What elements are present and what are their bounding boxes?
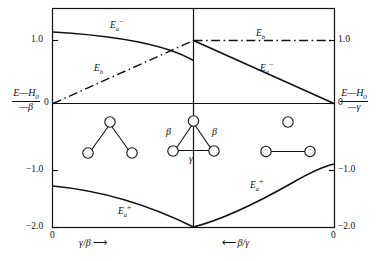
right-bottom-axis-label: ⟵ β/γ (222, 237, 249, 248)
curve-label-middle-left-sub: b (100, 68, 103, 75)
curve-label-upper-left-sub: a (116, 25, 119, 32)
curve-ea-plus-lower-right (194, 164, 335, 227)
left-origin-tick: 0 (50, 230, 55, 240)
curve-label-lower-right-sub: a (256, 185, 259, 192)
structure-center-right-bond-label: β (212, 126, 217, 137)
right-bottom-axis-arrow: ⟵ (222, 237, 235, 248)
left-tick-minus1: −1.0 (26, 164, 43, 174)
right-tick-minus1: −1.0 (338, 164, 355, 174)
right-bottom-axis-text: β/γ (238, 237, 250, 248)
curve-label-lower-left-sup: + (127, 203, 131, 212)
structure-center-left-bond-label: β (166, 126, 171, 137)
curve-label-middle-right-sub: a (266, 68, 269, 75)
structure-right-diatomic-atom (261, 117, 315, 157)
curve-label-lower-left: Ea+ (118, 203, 131, 218)
curve-label-lower-right-sup: + (259, 177, 263, 186)
left-bottom-axis-arrow: ⟶ (93, 237, 106, 248)
right-tick-minus2: −2.0 (338, 221, 355, 231)
curve-label-lower-right: Ea+ (250, 177, 263, 192)
left-axis-denominator: —β (12, 102, 40, 113)
right-axis-denominator: —γ (340, 102, 368, 113)
curve-label-upper-left: Ea− (110, 17, 123, 32)
right-axis-numerator: E—H (341, 87, 363, 98)
figure-container: E—H0 —β E—H0 —γ 1.0 0 −1.0 −2.0 1.0 0 −1… (0, 0, 378, 261)
right-tick-0: 0 (338, 97, 343, 107)
curve-label-lower-left-sub: a (124, 211, 127, 218)
left-tick-0: 0 (44, 97, 49, 107)
right-tick-1: 1.0 (338, 34, 350, 44)
curve-eb-left (53, 41, 194, 104)
left-tick-1: 1.0 (31, 34, 43, 44)
left-bottom-axis-label: γ/β ⟶ (79, 237, 106, 248)
curve-label-middle-right: Ea− (260, 60, 273, 75)
left-axis-label: E—H0 —β (2, 88, 50, 113)
curve-label-middle-left: Eb (94, 60, 103, 75)
left-axis-numerator: E—H (13, 87, 35, 98)
right-axis-numerator-sub: 0 (363, 93, 367, 101)
curve-label-upper-right-sub: b (262, 33, 265, 40)
curve-label-middle-right-sup: − (269, 60, 273, 69)
left-bottom-axis-text: γ/β (79, 237, 91, 248)
left-tick-minus2: −2.0 (26, 221, 43, 231)
left-tick-marks (53, 41, 59, 228)
right-origin-tick: 0 (331, 230, 336, 240)
structure-center-base-bond-label: γ (189, 153, 193, 164)
left-axis-numerator-sub: 0 (35, 93, 39, 101)
structure-left-bent-triatomic (83, 117, 137, 158)
plot-svg (0, 0, 378, 261)
curve-ea-minus-upper-left (53, 32, 194, 61)
curve-label-upper-left-sup: − (119, 17, 123, 26)
curve-label-upper-right: Eb (256, 25, 265, 40)
right-tick-marks (329, 41, 335, 228)
